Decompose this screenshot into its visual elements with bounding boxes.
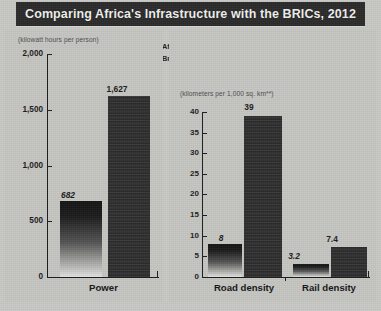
bar-rail-africa bbox=[293, 264, 329, 277]
value-label-power-africa: 682 bbox=[48, 190, 88, 200]
y-tick-label-right-30: 30 bbox=[169, 148, 199, 157]
value-label-road-bric: 39 bbox=[225, 102, 273, 112]
y-tick-label-right-25: 25 bbox=[169, 169, 199, 178]
category-label-road-density: Road density bbox=[199, 282, 289, 293]
panel-power: (kilowatt hours per person) 2,000 1,500 … bbox=[5, 30, 163, 302]
page-title: Comparing Africa's Infrastructure with t… bbox=[25, 7, 356, 21]
value-label-rail-bric: 7.4 bbox=[313, 234, 351, 244]
y-tick-label-right-35: 35 bbox=[169, 128, 199, 137]
axis-unit-right: (kilometers per 1,000 sq. km**) bbox=[180, 90, 274, 97]
panel-density: (kilometers per 1,000 sq. km**) 40 35 30… bbox=[169, 30, 376, 302]
value-label-rail-africa: 3.2 bbox=[275, 251, 313, 261]
bar-rail-bric bbox=[331, 247, 367, 278]
bar-power-bric bbox=[108, 96, 150, 277]
y-tick-label-left-2000: 2,000 bbox=[5, 49, 43, 58]
y-tick-label-left-500: 500 bbox=[5, 216, 43, 225]
axis-unit-left: (kilowatt hours per person) bbox=[18, 36, 99, 43]
y-tick-label-left-1500: 1,500 bbox=[5, 105, 43, 114]
chart-figure: Comparing Africa's Infrastructure with t… bbox=[0, 0, 381, 311]
x-axis-group-separator bbox=[285, 277, 286, 281]
bar-road-africa bbox=[208, 244, 242, 277]
value-label-power-bric: 1,627 bbox=[93, 84, 141, 94]
category-label-rail-density: Rail density bbox=[287, 282, 371, 293]
y-tick-label-right-40: 40 bbox=[169, 107, 199, 116]
x-axis-left bbox=[47, 277, 159, 278]
y-tick-label-left-0: 0 bbox=[5, 272, 43, 281]
y-tick-label-right-20: 20 bbox=[169, 189, 199, 198]
value-label-road-africa: 8 bbox=[200, 233, 242, 243]
y-tick-label-right-0: 0 bbox=[169, 272, 199, 281]
y-tick-label-left-1000: 1,000 bbox=[5, 161, 43, 170]
y-tick-label-right-15: 15 bbox=[169, 210, 199, 219]
bar-power-africa bbox=[60, 201, 102, 277]
figure-title-band: Comparing Africa's Infrastructure with t… bbox=[16, 2, 365, 26]
y-tick-label-right-10: 10 bbox=[169, 231, 199, 240]
category-label-power: Power bbox=[48, 282, 159, 293]
y-tick-label-right-5: 5 bbox=[169, 251, 199, 260]
